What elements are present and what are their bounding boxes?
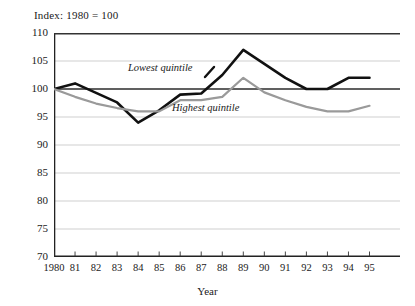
y-axis-tick-label: 75 bbox=[18, 222, 48, 234]
y-axis-tick-label: 100 bbox=[18, 82, 48, 94]
plot-area bbox=[54, 33, 400, 257]
y-axis-tick-label: 95 bbox=[18, 110, 48, 122]
annotation-leader-lines bbox=[205, 67, 214, 77]
y-axis-tick-label: 80 bbox=[18, 194, 48, 206]
leader-line-lowest-quintile bbox=[205, 67, 214, 77]
y-axis-tick-label: 85 bbox=[18, 166, 48, 178]
y-axis-tick-label: 105 bbox=[18, 54, 48, 66]
series-label-lowest-quintile: Lowest quintile bbox=[128, 62, 192, 73]
y-axis-tick-label: 90 bbox=[18, 138, 48, 150]
x-axis-tick-label: 95 bbox=[355, 262, 385, 273]
gridlines bbox=[54, 61, 400, 257]
y-axis-tick-label: 110 bbox=[18, 26, 48, 38]
plot-svg bbox=[54, 33, 400, 257]
chart-title: Index: 1980 = 100 bbox=[34, 9, 118, 21]
y-axis-tick-label: 70 bbox=[18, 250, 48, 262]
x-axis-title: Year bbox=[0, 285, 415, 297]
line-chart: Index: 1980 = 100 707580859095100105110 … bbox=[0, 0, 415, 306]
series-label-highest-quintile: Highest quintile bbox=[172, 102, 239, 113]
